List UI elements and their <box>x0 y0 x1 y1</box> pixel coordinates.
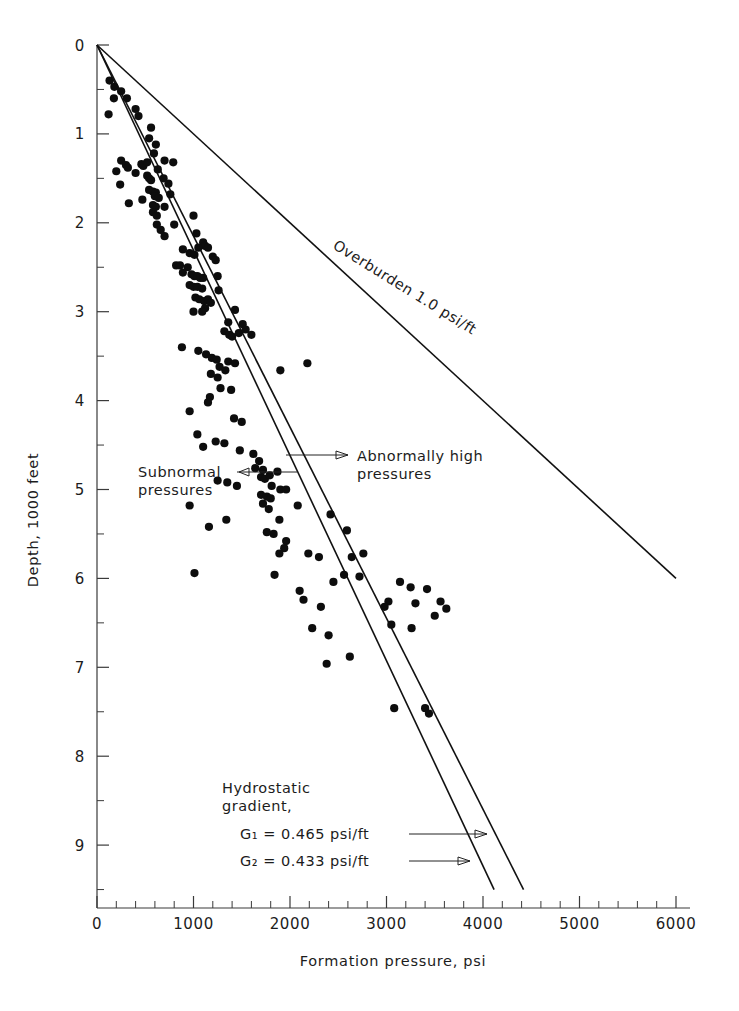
data-point <box>145 134 153 142</box>
data-point <box>396 578 404 586</box>
data-point <box>170 220 178 228</box>
data-point <box>124 164 132 172</box>
data-point <box>186 501 194 509</box>
data-point <box>390 704 398 712</box>
x-tick-label-3000: 3000 <box>366 915 407 933</box>
data-point <box>154 165 162 173</box>
hydrostatic-gradient-line2: gradient, <box>222 798 292 814</box>
hydrostatic-g1-label: G₁ = 0.465 psi/ft <box>240 826 369 842</box>
data-point <box>214 272 222 280</box>
data-point <box>193 430 201 438</box>
data-point <box>116 180 124 188</box>
abnormally-high-line2: pressures <box>357 466 432 482</box>
data-point <box>236 446 244 454</box>
data-point <box>204 398 212 406</box>
x-tick-label-5000: 5000 <box>559 915 600 933</box>
subnormal-pressures-line1: Subnormal <box>138 464 221 480</box>
data-point <box>251 464 259 472</box>
data-point <box>198 308 206 316</box>
x-tick-label-0: 0 <box>92 915 102 933</box>
data-point <box>407 583 415 591</box>
x-tick-label-2000: 2000 <box>270 915 311 933</box>
x-tick-label-4000: 4000 <box>463 915 504 933</box>
data-point <box>355 573 363 581</box>
data-point <box>223 478 231 486</box>
data-point <box>164 180 172 188</box>
data-point <box>194 347 202 355</box>
data-point <box>431 612 439 620</box>
y-tick-label-8: 8 <box>75 748 85 766</box>
data-point <box>294 501 302 509</box>
data-point <box>194 244 202 252</box>
data-point <box>155 194 163 202</box>
data-point <box>411 599 419 607</box>
data-point <box>190 251 198 259</box>
y-tick-label-3: 3 <box>75 303 85 321</box>
data-point <box>192 229 200 237</box>
data-point <box>214 373 222 381</box>
data-point <box>387 621 395 629</box>
data-point <box>323 660 331 668</box>
data-point <box>329 578 337 586</box>
data-point <box>268 482 276 490</box>
data-point <box>138 196 146 204</box>
hydrostatic-g2-label: G₂ = 0.433 psi/ft <box>240 853 369 869</box>
chart-background <box>0 0 739 1011</box>
data-point <box>143 158 151 166</box>
data-point <box>190 569 198 577</box>
data-point <box>117 87 125 95</box>
x-tick-label-1000: 1000 <box>173 915 214 933</box>
data-point <box>407 624 415 632</box>
data-point <box>147 124 155 132</box>
data-point <box>317 603 325 611</box>
data-point <box>340 571 348 579</box>
data-point <box>198 284 206 292</box>
data-point <box>231 359 239 367</box>
data-point <box>132 105 140 113</box>
data-point <box>442 605 450 613</box>
data-point <box>204 244 212 252</box>
data-point <box>199 443 207 451</box>
data-point <box>436 597 444 605</box>
data-point <box>265 505 273 513</box>
data-point <box>212 256 220 264</box>
data-point <box>199 274 207 282</box>
data-point <box>267 494 275 502</box>
data-point <box>255 457 263 465</box>
subnormal-pressures-line2: pressures <box>138 482 213 498</box>
data-point <box>212 437 220 445</box>
data-point <box>270 530 278 538</box>
data-point <box>230 414 238 422</box>
data-point <box>259 466 267 474</box>
data-point <box>189 308 197 316</box>
x-axis-title: Formation pressure, psi <box>300 953 487 969</box>
data-point <box>308 624 316 632</box>
data-point <box>348 553 356 561</box>
data-point <box>104 110 112 118</box>
x-tick-label-6000: 6000 <box>656 915 697 933</box>
data-point <box>125 199 133 207</box>
data-point <box>110 83 118 91</box>
data-point <box>221 366 229 374</box>
data-point <box>270 571 278 579</box>
data-point <box>153 212 161 220</box>
data-point <box>299 596 307 604</box>
data-point <box>123 94 131 102</box>
data-point <box>425 709 433 717</box>
data-point <box>214 286 222 294</box>
data-point <box>216 384 224 392</box>
data-point <box>231 306 239 314</box>
data-point <box>205 523 213 531</box>
data-point <box>282 485 290 493</box>
y-tick-label-5: 5 <box>75 481 85 499</box>
data-point <box>276 366 284 374</box>
data-point <box>296 587 304 595</box>
data-point <box>282 537 290 545</box>
y-tick-label-2: 2 <box>75 214 85 232</box>
data-point <box>227 386 235 394</box>
abnormally-high-line1: Abnormally high <box>357 448 483 464</box>
data-point <box>152 140 160 148</box>
data-point <box>176 261 184 269</box>
y-tick-label-1: 1 <box>75 125 85 143</box>
pressure-depth-chart: 0100020003000400050006000 0123456789 For… <box>0 0 739 1011</box>
